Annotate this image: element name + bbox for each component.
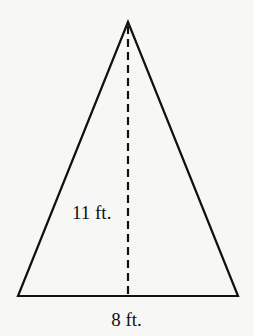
triangle-diagram — [0, 0, 253, 336]
height-label: 11 ft. — [72, 203, 111, 222]
base-label: 8 ft. — [0, 310, 253, 329]
